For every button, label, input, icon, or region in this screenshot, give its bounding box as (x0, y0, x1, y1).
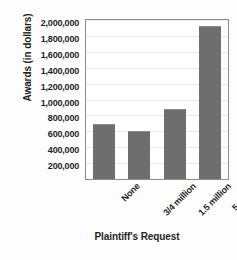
x-axis-tick-label: None (120, 181, 142, 203)
y-axis-tick-labels: 200,000400,000600,000800,0001,000,0001,2… (24, 21, 82, 178)
x-axis-tick-label-text: 3/4 million (161, 181, 198, 218)
bar[interactable] (128, 131, 150, 179)
y-axis-tick-label: 600,000 (48, 130, 79, 139)
x-axis-tick-labels: None3/4 million1.5 million5 million (85, 181, 229, 227)
bar-chart-figure: Awards (in dollars) 200,000400,000600,00… (0, 0, 237, 260)
x-axis-tick-label-text: None (120, 181, 142, 203)
y-axis-tick-label: 800,000 (48, 114, 79, 123)
y-axis-tick-label: 2,000,000 (41, 19, 79, 28)
plot-area (85, 19, 229, 180)
y-axis-tick-label: 1,400,000 (41, 66, 79, 75)
x-axis-title: Plaintiff's Request (62, 231, 212, 242)
y-axis-tick-label: 1,200,000 (41, 82, 79, 91)
bars-layer (86, 20, 228, 179)
x-axis-tick-label-text: 1.5 million (197, 181, 234, 218)
y-axis-tick-label: 1,600,000 (41, 50, 79, 59)
x-axis-tick-label: 1.5 million (197, 181, 234, 218)
y-axis-tick-label: 200,000 (48, 162, 79, 171)
y-axis-tick-label: 1,800,000 (41, 34, 79, 43)
bar[interactable] (199, 26, 221, 179)
y-axis-tick-label: 400,000 (48, 146, 79, 155)
bar[interactable] (93, 124, 115, 179)
x-axis-tick-label: 3/4 million (161, 181, 198, 218)
bar[interactable] (164, 109, 186, 179)
y-axis-tick-label: 1,000,000 (41, 98, 79, 107)
